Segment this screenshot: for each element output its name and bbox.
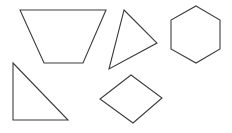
shapes-svg <box>0 0 232 133</box>
shapes-canvas <box>0 0 232 133</box>
canvas-background <box>0 0 232 133</box>
